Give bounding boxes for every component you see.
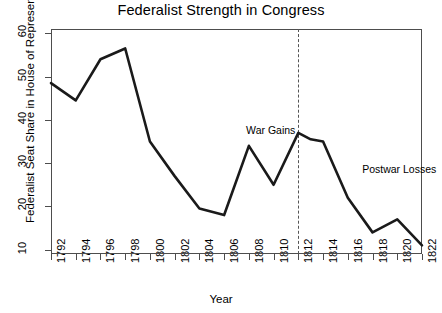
chart-figure: Federalist Strength in Congress Federali… bbox=[0, 0, 442, 313]
data-line bbox=[0, 0, 442, 313]
annotation-war-gains: War Gains bbox=[0, 124, 295, 136]
annotation-postwar-losses: Postwar Losses bbox=[362, 163, 436, 175]
